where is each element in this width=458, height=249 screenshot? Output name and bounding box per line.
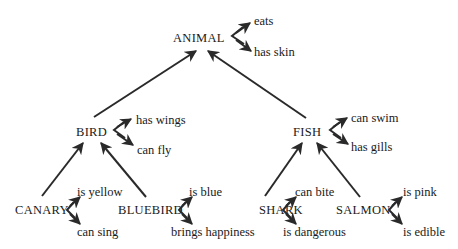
property-bracket-icon	[232, 23, 251, 51]
node-label-animal: ANIMAL	[173, 31, 225, 45]
node-salmon: SALMON is pink is edible	[336, 185, 445, 239]
property-canary-is-yellow: is yellow	[77, 185, 122, 199]
edge-fish-animal	[208, 51, 306, 118]
property-salmon-is-pink: is pink	[403, 185, 437, 199]
edges	[42, 51, 360, 197]
property-bluebird-brings-happiness: brings happiness	[171, 225, 255, 239]
property-salmon-is-edible: is edible	[403, 225, 445, 239]
property-bracket-icon	[389, 197, 402, 224]
node-bird: BIRD has wings can fly	[76, 113, 186, 157]
semantic-network-diagram: ANIMAL eats has skin BIRD has wings can …	[0, 0, 458, 249]
property-shark-can-bite: can bite	[295, 185, 335, 199]
property-animal-eats: eats	[254, 14, 274, 28]
property-bracket-icon	[330, 118, 348, 144]
property-fish-can-swim: can swim	[351, 111, 399, 125]
node-label-fish: FISH	[293, 125, 321, 139]
node-shark: SHARK can bite is dangerous	[259, 185, 346, 239]
node-label-salmon: SALMON	[336, 203, 391, 217]
node-fish: FISH can swim has gills	[293, 111, 399, 154]
property-canary-can-sing: can sing	[77, 225, 119, 239]
node-label-bird: BIRD	[76, 125, 107, 139]
node-label-bluebird: BLUEBIRD	[118, 203, 183, 217]
node-bluebird: BLUEBIRD is blue brings happiness	[118, 185, 255, 239]
node-label-shark: SHARK	[259, 203, 303, 217]
node-canary: CANARY is yellow can sing	[15, 185, 122, 239]
node-animal: ANIMAL eats has skin	[173, 14, 295, 59]
property-bird-can-fly: can fly	[137, 143, 172, 157]
property-bracket-icon	[67, 197, 80, 224]
property-bracket-icon	[114, 119, 133, 145]
property-bluebird-is-blue: is blue	[189, 185, 222, 199]
property-bird-has-wings: has wings	[136, 113, 186, 127]
property-animal-has-skin: has skin	[254, 45, 295, 59]
node-label-canary: CANARY	[15, 203, 69, 217]
property-fish-has-gills: has gills	[351, 140, 392, 154]
property-shark-is-dangerous: is dangerous	[283, 225, 346, 239]
edge-bird-animal	[94, 51, 196, 117]
